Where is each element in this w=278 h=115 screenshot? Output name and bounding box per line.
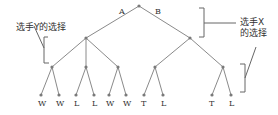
leaf-label: L xyxy=(161,99,167,108)
leaf-label: L xyxy=(74,99,80,108)
leaf-label: L xyxy=(229,99,235,108)
leaf-label: W xyxy=(56,99,65,108)
player-y-caption: 选手Y的选择 xyxy=(16,22,67,33)
node-a xyxy=(84,36,87,39)
root-node xyxy=(137,4,140,7)
player-x-caption-line2: 的选择 xyxy=(240,28,267,39)
leaf-label: W xyxy=(106,99,115,108)
node-b xyxy=(188,36,191,39)
leaf-labels: W W L L W W T L T L xyxy=(38,99,235,108)
leaf-label: T xyxy=(209,99,215,108)
leaf-label: W xyxy=(123,99,132,108)
edge-label-b: B xyxy=(155,7,161,16)
tree-edges xyxy=(41,6,231,95)
leaf-label: L xyxy=(92,99,98,108)
edge-label-a: A xyxy=(118,7,125,16)
game-tree-diagram: A B W W L L W W T L T L xyxy=(0,0,278,115)
leaf-label: W xyxy=(38,99,47,108)
player-x-caption-line1: 选手X xyxy=(240,17,264,28)
player-x-bracket xyxy=(199,8,236,37)
leaf-label: T xyxy=(141,99,147,108)
player-x-bracket-lower xyxy=(240,47,256,92)
